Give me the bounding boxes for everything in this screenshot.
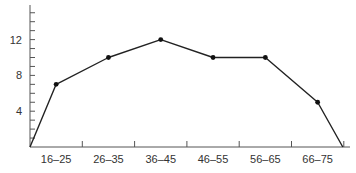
y-axis-labels: 4812 [10, 34, 22, 118]
x-tick-label: 56–65 [250, 153, 281, 165]
x-axis-ticks [82, 141, 344, 147]
data-point-marker [315, 100, 320, 105]
x-tick-label: 26–35 [93, 153, 124, 165]
y-tick-label: 12 [10, 34, 22, 46]
series-line [30, 40, 343, 147]
y-tick-label: 4 [16, 105, 22, 117]
data-point-marker [54, 82, 59, 87]
y-tick-label: 8 [16, 69, 22, 81]
data-point-marker [263, 55, 268, 60]
x-tick-label: 16–25 [41, 153, 72, 165]
data-series [30, 37, 343, 147]
x-axis-labels: 16–2526–3536–4546–5556–6566–75 [41, 153, 333, 165]
axes [30, 5, 350, 147]
data-point-marker [211, 55, 216, 60]
data-point-marker [106, 55, 111, 60]
x-tick-label: 66–75 [302, 153, 333, 165]
y-axis-ticks [30, 13, 35, 138]
x-tick-label: 46–55 [198, 153, 229, 165]
data-point-marker [158, 37, 163, 42]
line-chart: 4812 16–2526–3536–4546–5556–6566–75 [0, 0, 356, 173]
x-tick-label: 36–45 [145, 153, 176, 165]
